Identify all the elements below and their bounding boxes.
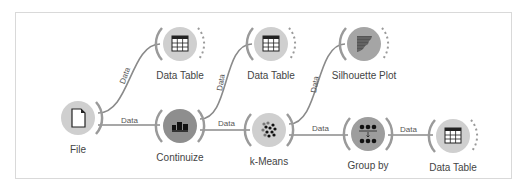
silhouette-icon	[347, 27, 381, 61]
link-label: Data	[400, 125, 417, 134]
file-icon	[61, 101, 95, 135]
table-icon	[254, 27, 288, 61]
continuize-icon	[163, 109, 197, 143]
scatter-clusters-icon	[252, 113, 286, 147]
node-label: Silhouette Plot	[304, 70, 424, 81]
link-label: Data	[312, 124, 329, 133]
table-icon	[436, 119, 470, 153]
link-label: Data	[121, 116, 138, 125]
table-icon	[163, 27, 197, 61]
node-label: Data Table	[393, 162, 513, 173]
group-by-icon	[351, 117, 385, 151]
link-label: Data	[218, 119, 235, 128]
